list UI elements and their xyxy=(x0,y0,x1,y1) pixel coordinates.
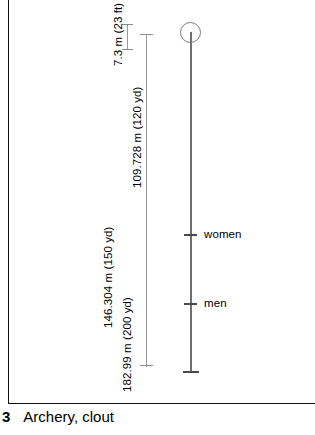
figure-caption: 3 Archery, clout xyxy=(2,409,315,433)
dimension-line-7-3m xyxy=(127,24,128,50)
tick-mark-women xyxy=(184,234,197,236)
dimension-cap-120yd-top xyxy=(140,34,153,35)
figure-title: Archery, clout xyxy=(23,409,114,426)
dimension-label-146m: 146.304 m (150 yd) xyxy=(103,226,115,328)
dimension-label-182m: 182.99 m (200 yd) xyxy=(122,297,134,392)
dimension-cap-120yd-bottom xyxy=(140,365,153,366)
diagram-frame: women men 7.3 m (23 ft) 109.728 m (120 y… xyxy=(8,0,315,404)
range-line xyxy=(190,32,192,373)
dimension-line-120yd xyxy=(146,35,147,367)
dimension-label-109m: 109.728 m (120 yd) xyxy=(132,86,144,188)
clout-target-icon xyxy=(180,22,201,43)
range-line-end-cap xyxy=(183,371,199,373)
shooting-mark-label-women: women xyxy=(204,229,242,241)
tick-mark-men xyxy=(184,303,197,305)
diagram-page: women men 7.3 m (23 ft) 109.728 m (120 y… xyxy=(0,0,315,435)
figure-number: 3 xyxy=(2,409,10,426)
shooting-mark-label-men: men xyxy=(204,298,227,310)
dimension-label-7-3m: 7.3 m (23 ft) xyxy=(113,3,125,66)
